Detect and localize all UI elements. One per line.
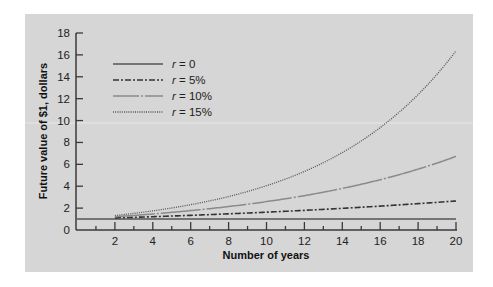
y-tick-label: 8	[64, 136, 70, 148]
y-axis-title: Future value of $1, dollars	[37, 63, 49, 199]
y-tick-label: 12	[57, 93, 70, 105]
x-tick-label: 16	[374, 235, 387, 247]
x-tick-label: 4	[150, 235, 157, 247]
x-tick-label: 8	[225, 235, 231, 247]
x-tick-label: 6	[187, 235, 193, 247]
y-tick-label: 6	[64, 158, 70, 170]
y-tick-label: 14	[57, 71, 70, 83]
y-tick-label: 10	[57, 115, 70, 127]
future-value-chart: 024681012141618 2468101214161820 Future …	[0, 0, 493, 287]
x-tick-label: 12	[298, 235, 311, 247]
y-tick-label: 18	[57, 27, 70, 39]
legend-label: r = 5%	[172, 74, 206, 86]
x-tick-label: 14	[336, 235, 349, 247]
legend-label: r = 0	[172, 58, 195, 70]
chart-panel	[25, 14, 473, 272]
y-tick-label: 16	[57, 49, 70, 61]
y-tick-label: 2	[64, 202, 70, 214]
x-tick-label: 20	[450, 235, 463, 247]
x-tick-label: 10	[260, 235, 273, 247]
legend-label: r = 10%	[172, 90, 212, 102]
x-axis-title: Number of years	[223, 249, 310, 261]
y-tick-label: 0	[64, 224, 70, 236]
legend-label: r = 15%	[172, 106, 212, 118]
x-tick-label: 18	[412, 235, 425, 247]
y-tick-label: 4	[64, 180, 71, 192]
x-tick-label: 2	[112, 235, 118, 247]
